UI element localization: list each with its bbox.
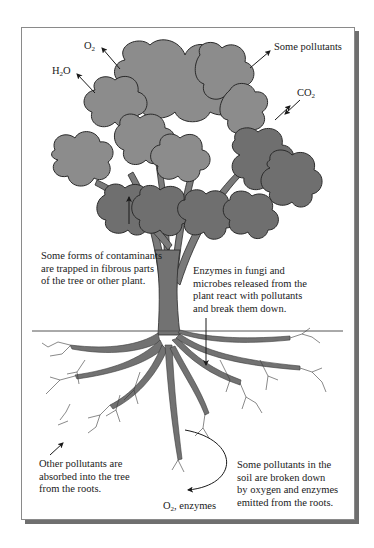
h2o-arrow <box>77 74 95 93</box>
label-o2-enzymes: O2, enzymes <box>163 500 216 513</box>
label-h2o: H2O <box>52 65 71 78</box>
label-some-pollutants: Some pollutants <box>274 41 342 54</box>
o2-arrow <box>102 48 120 69</box>
absorbed-arrow <box>50 443 63 455</box>
label-enzymes-fungi: Enzymes in fungi and microbes released f… <box>193 265 307 315</box>
label-other-pollutants: Other pollutants are absorbed into the t… <box>39 458 130 496</box>
label-o2: O2 <box>84 40 95 53</box>
label-co2: CO2 <box>297 87 315 100</box>
o2-enzymes-arrow <box>185 430 227 490</box>
label-contaminants-trapped: Some forms of contaminants are trapped i… <box>41 250 162 288</box>
main-roots <box>70 330 300 460</box>
co2-out-arrow <box>275 106 290 120</box>
co2-in-arrow <box>285 100 300 114</box>
label-soil-breakdown: Some pollutants in the soil are broken d… <box>237 459 338 509</box>
pollutants-arrow <box>250 51 270 68</box>
